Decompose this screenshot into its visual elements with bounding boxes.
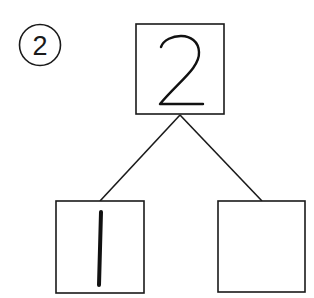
problem-number-badge: 2 bbox=[20, 25, 61, 66]
left-box: 1 bbox=[56, 201, 144, 293]
digit-one-handwritten bbox=[99, 212, 101, 285]
number-bond-diagram: 2 2 1 bbox=[0, 0, 314, 298]
connector-line-right bbox=[180, 115, 262, 201]
top-box: 2 bbox=[136, 24, 224, 114]
problem-number: 2 bbox=[32, 31, 47, 61]
connector-line-left bbox=[100, 115, 180, 201]
right-box[interactable] bbox=[218, 201, 305, 292]
answer-box-empty[interactable] bbox=[218, 201, 305, 292]
